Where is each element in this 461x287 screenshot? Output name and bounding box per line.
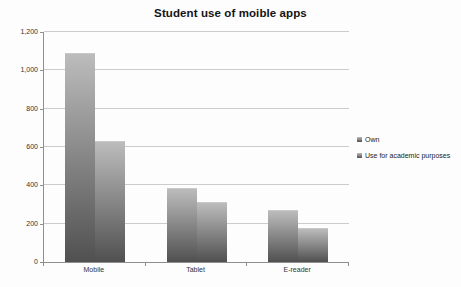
legend-marker-icon	[357, 137, 362, 142]
x-tick	[348, 263, 349, 266]
chart-canvas: Student use of moible apps 0200400600800…	[0, 0, 461, 287]
y-tick	[40, 185, 43, 186]
y-tick-label: 1,000	[0, 66, 38, 74]
y-tick	[40, 32, 43, 33]
x-tick	[246, 263, 247, 266]
y-tick-label: 200	[0, 220, 38, 228]
y-tick-label: 400	[0, 181, 38, 189]
legend-label: Own	[365, 136, 379, 143]
bar-e-reader-own	[268, 210, 298, 262]
x-tick-label: E-reader	[257, 266, 337, 273]
chart-title: Student use of moible apps	[0, 7, 461, 19]
y-tick-label: 600	[0, 143, 38, 151]
y-tick-label: 800	[0, 105, 38, 113]
y-tick-label: 0	[0, 258, 38, 266]
legend-item-own: Own	[357, 136, 450, 143]
bar-mobile-own	[65, 53, 95, 262]
gridline	[44, 31, 349, 32]
legend-marker-icon	[357, 153, 362, 158]
y-tick-label: 1,200	[0, 28, 38, 36]
bar-tablet-own	[167, 188, 197, 262]
bar-e-reader-use-for-academic-purposes	[298, 228, 328, 263]
y-tick	[40, 70, 43, 71]
x-tick	[43, 263, 44, 266]
y-tick	[40, 109, 43, 110]
y-tick	[40, 224, 43, 225]
legend-item-use-for-academic-purposes: Use for academic purposes	[357, 152, 450, 159]
x-tick-label: Tablet	[156, 266, 236, 273]
legend-label: Use for academic purposes	[365, 152, 450, 159]
plot-area	[43, 32, 349, 263]
bar-tablet-use-for-academic-purposes	[197, 202, 227, 262]
bar-mobile-use-for-academic-purposes	[95, 141, 125, 262]
y-tick	[40, 147, 43, 148]
x-tick	[145, 263, 146, 266]
legend: OwnUse for academic purposes	[357, 136, 450, 159]
x-tick-label: Mobile	[54, 266, 134, 273]
